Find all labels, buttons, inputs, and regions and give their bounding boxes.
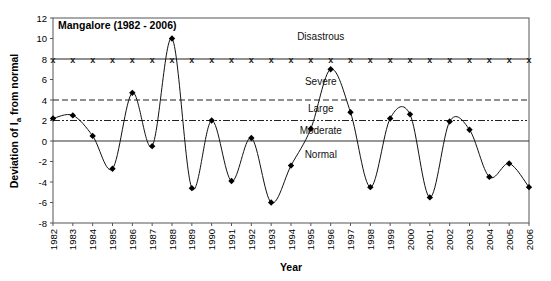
x-tick-label: 1986 <box>127 229 138 250</box>
x-tick-label: 1989 <box>186 229 197 250</box>
x-marker-icon: x <box>130 55 135 65</box>
diamond-marker-icon <box>109 165 115 171</box>
x-tick-label: 1990 <box>206 229 217 250</box>
deviation-line-chart: xxxxxxxxxxxxxxxxxxxxxxxxx DisastrousSeve… <box>0 0 551 281</box>
diamond-marker-icon <box>268 199 274 205</box>
x-tick-label: 1992 <box>246 229 257 250</box>
x-marker-icon: x <box>110 55 115 65</box>
x-marker-icon: x <box>328 55 333 65</box>
x-marker-icon: x <box>229 55 234 65</box>
x-tick-label: 2001 <box>424 229 435 250</box>
x-tick-label: 1993 <box>266 229 277 250</box>
x-marker-icon: x <box>407 55 412 65</box>
y-tick-label: 10 <box>36 33 47 44</box>
y-axis: -8-6-4-2024681012 <box>36 13 53 229</box>
x-marker-icon: x <box>209 55 214 65</box>
diamond-marker-icon <box>506 160 512 166</box>
x-tick-label: 1984 <box>87 229 98 250</box>
x-tick-label: 2000 <box>405 229 416 250</box>
x-tick-label: 2003 <box>464 229 475 250</box>
chart-title: Mangalore (1982 - 2006) <box>58 19 176 31</box>
y-axis-title-tail: from normal <box>8 54 20 118</box>
x-marker-icon: x <box>269 55 274 65</box>
x-tick-label: 1999 <box>385 229 396 250</box>
zone-label-severe: Severe <box>305 76 337 87</box>
x-marker-icon: x <box>150 55 155 65</box>
y-tick-label: 2 <box>42 115 47 126</box>
x-tick-label: 2006 <box>524 229 535 250</box>
x-tick-label: 1997 <box>345 229 356 250</box>
x-marker-icon: x <box>427 55 432 65</box>
x-axis-title: Year <box>280 261 302 273</box>
x-tick-label: 1991 <box>226 229 237 250</box>
diamond-marker-icon <box>228 178 234 184</box>
y-axis-title: Deviation of Ia from normal <box>8 54 23 189</box>
diamond-marker-icon <box>466 127 472 133</box>
x-marker-icon: x <box>288 55 293 65</box>
x-tick-label: 1994 <box>286 229 297 250</box>
x-marker-icon: x <box>507 55 512 65</box>
x-tick-label: 1987 <box>147 229 158 250</box>
x-tick-label: 1996 <box>325 229 336 250</box>
x-tick-label: 1988 <box>167 229 178 250</box>
y-tick-label: -2 <box>39 156 47 167</box>
diamond-marker-icon <box>189 185 195 191</box>
x-marker-icon: x <box>189 55 194 65</box>
diamond-marker-icon <box>407 111 413 117</box>
x-marker-icon: x <box>526 55 531 65</box>
y-tick-label: -4 <box>39 177 47 188</box>
diamond-marker-icon <box>129 90 135 96</box>
y-tick-label: -6 <box>39 197 47 208</box>
x-tick-label: 1985 <box>107 229 118 250</box>
y-tick-label: 6 <box>42 74 47 85</box>
x-marker-icon: x <box>308 55 313 65</box>
x-marker-icon: x <box>368 55 373 65</box>
diamond-marker-icon <box>288 162 294 168</box>
x-marker-icon: x <box>70 55 75 65</box>
x-tick-label: 1983 <box>67 229 78 250</box>
y-tick-label: 12 <box>36 13 47 24</box>
y-tick-label: 8 <box>42 54 47 65</box>
diamond-marker-icon <box>248 135 254 141</box>
x-tick-label: 2004 <box>484 229 495 250</box>
diamond-marker-icon <box>446 118 452 124</box>
x-marker-icon: x <box>249 55 254 65</box>
x-marker-icon: x <box>90 55 95 65</box>
x-marker-icon: x <box>388 55 393 65</box>
x-tick-label: 2005 <box>504 229 515 250</box>
zone-label-normal: Normal <box>305 149 337 160</box>
x-marker-icon: x <box>169 55 174 65</box>
x-tick-label: 1998 <box>365 229 376 250</box>
zone-label-moderate: Moderate <box>300 125 343 136</box>
x-marker-icon: x <box>487 55 492 65</box>
y-axis-title-main: Deviation of I <box>8 122 20 188</box>
zone-label-disastrous: Disastrous <box>297 31 344 42</box>
diamond-marker-icon <box>347 109 353 115</box>
x-marker-icon: x <box>447 55 452 65</box>
y-tick-label: 0 <box>42 136 47 147</box>
diamond-marker-icon <box>149 143 155 149</box>
diamond-marker-icon <box>70 112 76 118</box>
y-tick-label: 4 <box>42 95 47 106</box>
diamond-marker-icon <box>387 115 393 121</box>
zone-label-large: Large <box>308 103 334 114</box>
x-tick-label: 1982 <box>48 229 59 250</box>
x-tick-label: 2002 <box>444 229 455 250</box>
x-axis: 1982198319841985198619871988198919901991… <box>48 223 535 250</box>
y-tick-label: -8 <box>39 218 47 229</box>
x-marker-icon: x <box>348 55 353 65</box>
x-tick-label: 1995 <box>305 229 316 250</box>
x-marker-icon: x <box>467 55 472 65</box>
